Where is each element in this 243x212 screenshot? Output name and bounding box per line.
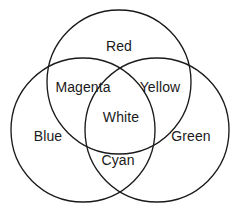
label-green: Green — [171, 129, 210, 143]
label-cyan: Cyan — [101, 153, 134, 167]
label-yellow: Yellow — [140, 80, 181, 94]
label-white: White — [103, 110, 139, 124]
label-magenta: Magenta — [55, 80, 110, 94]
venn-diagram-canvas — [0, 0, 243, 212]
label-red: Red — [106, 39, 132, 53]
label-blue: Blue — [34, 129, 62, 143]
venn-diagram: Red Magenta Yellow White Blue Green Cyan — [0, 0, 243, 212]
